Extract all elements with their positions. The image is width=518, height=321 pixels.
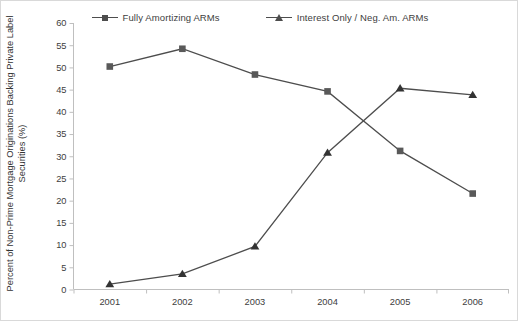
y-axis-tick-group: 051015202530354045505560 [56,18,73,295]
data-point-square [106,63,113,70]
y-tick-label: 10 [56,240,66,250]
chart-figure: Fully Amortizing ARMs Interest Only / Ne… [0,0,518,321]
y-tick-label: 35 [56,129,66,139]
y-tick-label: 25 [56,174,66,184]
y-tick-label: 55 [56,41,66,51]
y-tick-label: 0 [61,285,66,295]
data-point-square [324,88,331,95]
data-point-square [469,190,476,197]
x-tick-label-2005: 2005 [390,297,411,307]
y-tick-label: 30 [56,152,66,162]
series-group [105,45,477,287]
data-point-square [397,148,404,155]
y-tick-label: 5 [61,263,66,273]
x-tick-label-2004: 2004 [317,297,338,307]
y-tick-label: 45 [56,85,66,95]
y-tick-label: 15 [56,218,66,228]
x-tick-label-2003: 2003 [245,297,266,307]
y-tick-label: 50 [56,63,66,73]
x-axis-tick-group: 200120022003200420052006 [74,290,509,307]
plot-area: 051015202530354045505560 200120022003200… [1,1,518,321]
x-tick-label-2002: 2002 [172,297,193,307]
x-tick-label-2001: 2001 [99,297,120,307]
series-line-1 [110,49,473,194]
data-point-triangle [396,84,405,91]
x-tick-label-2006: 2006 [462,297,483,307]
data-point-square [252,71,259,78]
y-tick-label: 60 [56,18,66,28]
y-tick-label: 20 [56,196,66,206]
series-line-2 [110,88,473,284]
y-tick-label: 40 [56,107,66,117]
data-point-square [179,45,186,52]
